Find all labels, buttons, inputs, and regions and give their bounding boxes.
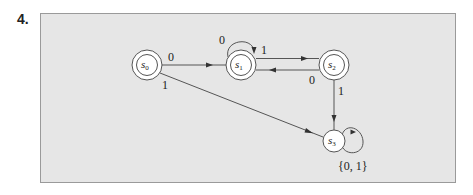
state-s3: s3 <box>323 130 345 152</box>
transition-label: 0 <box>309 73 315 87</box>
state-s1: s1 <box>226 50 256 80</box>
transition-label: 0 <box>219 33 225 47</box>
transition-s2-s1: 0 <box>256 68 319 88</box>
transition-s0-s1: 0 <box>162 50 226 68</box>
transition-s1-s2: 1 <box>256 43 319 61</box>
state-s0: s0 <box>132 50 162 80</box>
transition-s2-s3: 1 <box>332 80 345 131</box>
transition-label: 1 <box>261 43 267 57</box>
transition-label: 0 <box>168 50 174 64</box>
transition-label: 1 <box>338 84 344 98</box>
state-diagram: 0 1 0 1 0 1 {0, 1} s0 <box>0 0 473 195</box>
transition-label: {0, 1} <box>338 159 368 173</box>
state-s2: s2 <box>319 50 349 80</box>
transition-label: 1 <box>162 78 168 92</box>
transition-s0-s3: 1 <box>160 73 323 137</box>
